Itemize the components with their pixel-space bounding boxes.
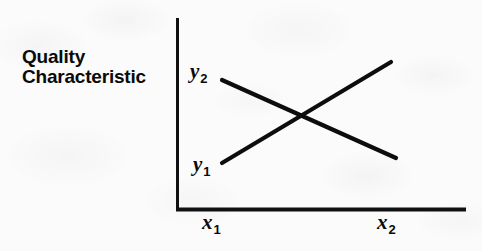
- x-axis-tick-label-x1-symbol: x: [202, 210, 213, 234]
- y-axis-title-line-1: Quality: [22, 47, 146, 67]
- series-line-y1: [222, 62, 391, 163]
- plot-canvas: [0, 0, 482, 251]
- x-axis-tick-label-x1: x1: [202, 211, 220, 233]
- interaction-plot-figure: Quality Characteristic y2 y1 x1 x2: [0, 0, 482, 251]
- series-label-y1-subscript: 1: [203, 164, 210, 179]
- series-label-y1: y1: [193, 153, 210, 175]
- y-axis-title-line-2: Characteristic: [22, 67, 146, 87]
- x-axis-tick-label-x2-subscript: 2: [389, 222, 396, 237]
- y-axis-title: Quality Characteristic: [22, 47, 146, 87]
- x-axis-tick-label-x2: x2: [377, 211, 395, 233]
- x-axis-tick-label-x1-subscript: 1: [214, 222, 221, 237]
- series-label-y2: y2: [190, 60, 207, 82]
- x-axis-tick-label-x2-symbol: x: [377, 210, 388, 234]
- series-label-y2-symbol: y: [190, 59, 199, 83]
- series-label-y2-subscript: 2: [200, 71, 207, 86]
- series-label-y1-symbol: y: [193, 152, 202, 176]
